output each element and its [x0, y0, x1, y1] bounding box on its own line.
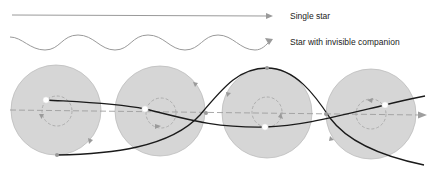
star-dot-2	[142, 106, 148, 112]
legend-label-single-star: Single star	[290, 11, 330, 21]
star-dot-4	[382, 102, 388, 108]
legend-companion-wave-line	[10, 35, 273, 50]
arrowhead-icon	[418, 112, 427, 119]
arrowhead-icon	[265, 38, 273, 45]
legend-single-star-line	[12, 13, 273, 19]
star-dot-3	[262, 124, 268, 130]
legend-label-star-with-companion: Star with invisible companion	[290, 37, 400, 47]
star-dot-1	[43, 97, 49, 103]
binary-star-diagram: Single star Star with invisible companio…	[0, 0, 434, 171]
arrowhead-icon	[266, 13, 273, 19]
